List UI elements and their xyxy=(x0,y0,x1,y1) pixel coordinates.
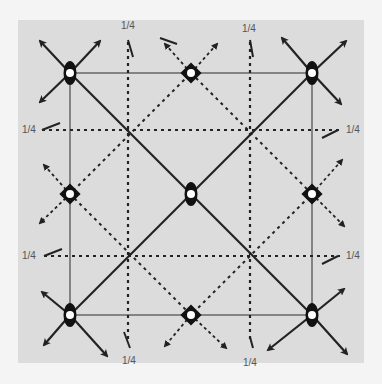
fourbar-axis-icon xyxy=(301,183,322,204)
label-bottom-left: 1/4 xyxy=(122,356,136,366)
label-left-upper: 1/4 xyxy=(22,125,36,135)
label-top-right: 1/4 xyxy=(242,24,256,34)
label-left-lower: 1/4 xyxy=(22,251,36,261)
twofold-axis-icon xyxy=(306,61,319,85)
fourbar-axis-icon xyxy=(59,183,80,204)
label-top-left: 1/4 xyxy=(121,21,135,31)
label-bottom-right: 1/4 xyxy=(243,358,257,368)
symmetry-diagram: 1/4 1/4 1/4 1/4 1/4 1/4 1/4 1/4 xyxy=(0,0,382,384)
twofold-axis-icon xyxy=(185,182,198,206)
label-right-upper: 1/4 xyxy=(346,125,360,135)
label-right-lower: 1/4 xyxy=(346,251,360,261)
diagram-graphics xyxy=(0,0,382,384)
twofold-axis-icon xyxy=(64,303,77,327)
twofold-axis-icons xyxy=(64,61,319,327)
twofold-axis-icon xyxy=(64,61,77,85)
twofold-axis-icon xyxy=(306,303,319,327)
